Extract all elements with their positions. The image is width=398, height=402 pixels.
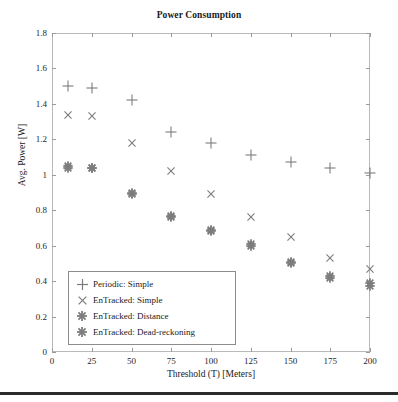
- x-tick-mark-top: [132, 33, 133, 37]
- legend-item-label: EnTracked: Distance: [91, 311, 168, 321]
- data-point-asterisk: [127, 190, 137, 200]
- x-tick-mark: [330, 348, 331, 352]
- x-axis-label: Threshold (T) [Meters]: [52, 369, 370, 379]
- data-point-cross: [127, 138, 137, 148]
- asterisk-icon: [73, 324, 91, 340]
- legend: Periodic: SimpleEnTracked: SimpleEnTrack…: [68, 271, 236, 345]
- x-tick-mark-top: [291, 33, 292, 37]
- data-point-asterisk: [63, 163, 73, 173]
- x-tick-mark: [251, 348, 252, 352]
- data-point-asterisk: [206, 227, 216, 237]
- data-point-cross: [286, 232, 296, 242]
- x-tick-mark-top: [330, 33, 331, 37]
- y-axis-label: Avg. Power [W]: [17, 85, 27, 225]
- data-point-asterisk: [365, 282, 375, 292]
- data-point-asterisk: [326, 273, 336, 283]
- y-tick-mark: [52, 352, 56, 353]
- x-tick-label: 75: [151, 356, 191, 366]
- y-tick-mark-right: [366, 352, 370, 353]
- data-point-plus: [126, 95, 137, 106]
- y-tick-mark: [52, 104, 56, 105]
- y-tick-mark: [52, 246, 56, 247]
- bottom-margin: [0, 395, 398, 402]
- x-tick-mark: [52, 348, 53, 352]
- y-tick-mark-right: [366, 317, 370, 318]
- x-tick-mark: [171, 348, 172, 352]
- data-point-asterisk: [87, 163, 97, 173]
- y-tick-mark: [52, 317, 56, 318]
- x-tick-mark: [132, 348, 133, 352]
- asterisk-icon: [73, 308, 91, 324]
- legend-item-label: EnTracked: Dead-reckoning: [91, 327, 195, 337]
- x-tick-label: 200: [350, 356, 390, 366]
- plus-icon: [73, 276, 91, 292]
- x-tick-label: 125: [231, 356, 271, 366]
- x-tick-label: 0: [32, 356, 72, 366]
- y-tick-label: 0.2: [11, 312, 47, 322]
- legend-item-label: Periodic: Simple: [91, 279, 153, 289]
- legend-item[interactable]: EnTracked: Distance: [73, 308, 229, 324]
- y-tick-label: 1.8: [11, 28, 47, 38]
- y-tick-mark-right: [366, 246, 370, 247]
- y-tick-mark: [52, 281, 56, 282]
- legend-item[interactable]: EnTracked: Simple: [73, 292, 229, 308]
- data-point-plus: [325, 162, 336, 173]
- data-point-cross: [206, 189, 216, 199]
- x-tick-label: 50: [112, 356, 152, 366]
- y-tick-mark-right: [366, 68, 370, 69]
- data-point-asterisk: [246, 241, 256, 251]
- data-point-plus: [285, 157, 296, 168]
- data-point-plus: [245, 150, 256, 161]
- x-tick-label: 150: [271, 356, 311, 366]
- x-tick-mark-top: [52, 33, 53, 37]
- legend-item[interactable]: EnTracked: Dead-reckoning: [73, 324, 229, 340]
- x-tick-mark: [211, 348, 212, 352]
- data-point-cross: [63, 110, 73, 120]
- x-tick-label: 175: [310, 356, 350, 366]
- x-tick-label: 25: [72, 356, 112, 366]
- y-tick-mark: [52, 68, 56, 69]
- data-point-cross: [166, 166, 176, 176]
- data-point-cross: [365, 264, 375, 274]
- y-tick-mark-right: [366, 210, 370, 211]
- data-point-plus: [62, 81, 73, 92]
- y-tick-mark: [52, 210, 56, 211]
- x-tick-mark: [370, 348, 371, 352]
- data-point-asterisk: [167, 213, 177, 223]
- y-tick-label: 0.6: [11, 241, 47, 251]
- y-tick-label: 1.6: [11, 63, 47, 73]
- data-point-plus: [86, 82, 97, 93]
- data-point-plus: [365, 168, 376, 179]
- data-point-plus: [166, 127, 177, 138]
- power-consumption-figure: Power Consumption 00.20.40.60.811.21.41.…: [0, 0, 398, 392]
- x-tick-mark: [291, 348, 292, 352]
- data-point-cross: [246, 212, 256, 222]
- x-tick-mark-top: [370, 33, 371, 37]
- cross-icon: [73, 292, 91, 308]
- y-tick-mark: [52, 139, 56, 140]
- y-tick-mark: [52, 175, 56, 176]
- data-point-cross: [325, 253, 335, 263]
- data-point-asterisk: [286, 259, 296, 269]
- x-tick-label: 100: [191, 356, 231, 366]
- data-point-plus: [206, 137, 217, 148]
- x-tick-mark-top: [211, 33, 212, 37]
- y-tick-mark-right: [366, 104, 370, 105]
- data-point-cross: [87, 111, 97, 121]
- x-tick-mark-top: [92, 33, 93, 37]
- x-tick-mark: [92, 348, 93, 352]
- y-tick-mark-right: [366, 139, 370, 140]
- x-tick-mark-top: [171, 33, 172, 37]
- legend-item-label: EnTracked: Simple: [91, 295, 162, 305]
- x-tick-mark-top: [251, 33, 252, 37]
- y-tick-label: 0.4: [11, 276, 47, 286]
- legend-item[interactable]: Periodic: Simple: [73, 276, 229, 292]
